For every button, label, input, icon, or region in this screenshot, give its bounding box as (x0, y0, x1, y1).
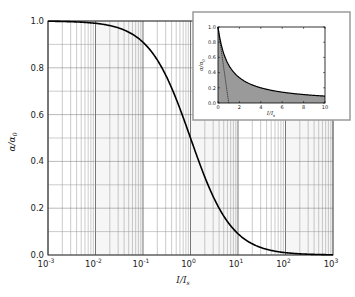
inset-y-tick-label: 0.6 (208, 54, 216, 60)
inset-chart: 0.00.20.40.60.81.00246810 I/Is α/α0 (193, 12, 350, 120)
inset-y-tick-label: 1.0 (208, 24, 216, 30)
x-axis-label: I/Is (175, 275, 189, 286)
inset-x-tick-label: 4 (259, 104, 262, 110)
inset-x-tick-label: 0 (216, 104, 219, 110)
y-axis-label: α/α0 (7, 132, 18, 151)
inset-y-tick-label: 0.2 (208, 85, 216, 91)
x-tick-label: 100 (181, 257, 196, 269)
y-tick-label: 0.8 (30, 63, 44, 73)
inset-x-tick-label: 6 (281, 104, 284, 110)
x-tick-label: 10-1 (133, 257, 150, 269)
y-tick-label: 0.6 (30, 110, 44, 120)
x-tick-label: 102 (276, 257, 291, 269)
y-tick-label: 0.4 (30, 156, 44, 166)
x-tick-label: 101 (229, 257, 244, 269)
inset-y-tick-label: 0.0 (208, 100, 216, 106)
x-tick-label: 103 (324, 257, 339, 269)
x-tick-label: 10-2 (85, 257, 102, 269)
inset-x-tick-label: 10 (322, 104, 328, 110)
inset-y-tick-label: 0.8 (208, 39, 216, 45)
saturation-chart: 0.00.20.40.60.81.010-310-210-11001011021… (0, 0, 355, 297)
y-tick-label: 0.2 (30, 203, 44, 213)
inset-x-tick-label: 8 (302, 104, 305, 110)
y-tick-label: 1.0 (30, 16, 44, 26)
inset-y-tick-label: 0.4 (208, 69, 216, 75)
inset-x-tick-label: 2 (238, 104, 241, 110)
x-tick-label: 10-3 (38, 257, 55, 269)
